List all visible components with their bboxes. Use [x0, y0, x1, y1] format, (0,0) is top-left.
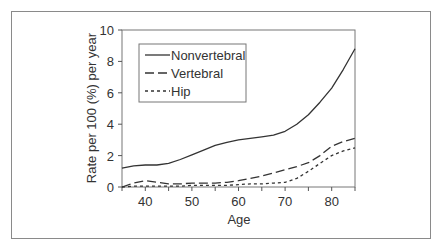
legend-item-vertebral: Vertebral: [171, 66, 223, 81]
legend-item-hip: Hip: [171, 84, 191, 99]
line-chart: 0246810 4050607080 Rate per 100 (%) per …: [0, 0, 441, 251]
y-axis-title: Rate per 100 (%) per year: [84, 32, 99, 183]
y-tick-label: 6: [107, 86, 114, 101]
legend: Nonvertebral Vertebral Hip: [139, 44, 246, 102]
x-tick-label: 50: [185, 194, 199, 209]
y-tick-label: 4: [107, 117, 114, 132]
x-tick-label: 60: [231, 194, 245, 209]
x-axis-title: Age: [227, 212, 250, 227]
y-tick-label: 8: [107, 54, 114, 69]
series-line-vertebral: [122, 138, 355, 187]
y-tick-label: 10: [100, 23, 114, 38]
x-tick-label: 70: [278, 194, 292, 209]
x-axis: 4050607080: [122, 187, 355, 209]
x-tick-label: 40: [138, 194, 152, 209]
y-axis: 0246810: [100, 23, 122, 195]
y-tick-label: 0: [107, 180, 114, 195]
x-tick-label: 80: [324, 194, 338, 209]
y-tick-label: 2: [107, 149, 114, 164]
legend-item-nonvertebral: Nonvertebral: [171, 48, 246, 63]
